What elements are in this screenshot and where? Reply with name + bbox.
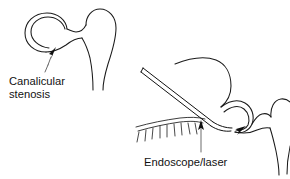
stenosis-arrowhead (49, 47, 56, 59)
nasolacrimal-duct-left-wall (82, 38, 93, 90)
eyelid-margin-curve-inner (138, 121, 203, 131)
canalicular-label-leader (45, 65, 48, 72)
eyelashes (137, 123, 197, 142)
lacrimal-endoscopy-figure: Canalicular stenosis (0, 0, 290, 179)
canaliculus-upper-wall (67, 25, 86, 32)
endoscope-distal-tip (213, 122, 232, 128)
canaliculus-inner-loop (31, 17, 65, 48)
canalicular-label-line1: Canalicular (9, 75, 65, 87)
endoscope-tip-cap (141, 68, 143, 72)
lacrimal-sac-duct-outline (86, 9, 116, 90)
figure-canvas: Canalicular stenosis (0, 0, 290, 179)
eyelid-margin-curve (136, 117, 205, 127)
endoscope-label: Endoscope/laser (144, 156, 228, 168)
treatment-arrowhead (236, 126, 246, 135)
canalicular-label-line2: stenosis (9, 88, 50, 100)
canaliculus-lower-wall (46, 38, 82, 52)
endoscope-leader-arrowhead (198, 120, 204, 130)
endoscope-distal-tip-lower (211, 126, 231, 131)
endoscope-shaft-upper (143, 68, 213, 122)
lacrimal-sac-duct-outline-right (271, 99, 290, 174)
right-panel: Endoscope/laser (136, 58, 290, 175)
endoscope-shaft-lower (141, 72, 211, 126)
canaliculus-upper-wall-right (252, 114, 271, 124)
nasolacrimal-duct-left-wall-right (270, 128, 279, 175)
stenosis-leader-line (48, 57, 51, 65)
left-panel: Canalicular stenosis (9, 9, 116, 100)
